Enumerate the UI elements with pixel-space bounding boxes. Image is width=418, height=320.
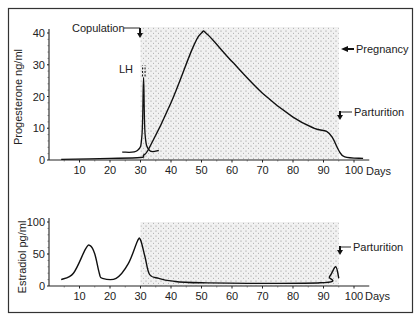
y-tick-label: 20 — [33, 91, 45, 103]
x-tick-label: 100 — [345, 290, 363, 302]
y-tick-label: 10 — [33, 122, 45, 134]
y-tick-label: 100 — [27, 216, 45, 228]
x-tick-label: 10 — [73, 164, 85, 176]
estradiol-y-axis-label: Estradiol pg/ml — [16, 221, 28, 294]
pregnancy-label: Pregnancy — [356, 43, 409, 55]
x-tick-label: 30 — [134, 290, 146, 302]
days-x-axis-label-bottom: Days — [365, 290, 391, 302]
x-tick-label: 90 — [317, 290, 329, 302]
progesterone-y-axis-label: Progesterone ng/ml — [12, 49, 24, 145]
y-tick-label: 0 — [39, 154, 45, 166]
parturition-label-bottom: Parturition — [353, 241, 403, 253]
y-tick-label: 30 — [33, 59, 45, 71]
days-x-axis-label-top: Days — [366, 165, 392, 177]
x-tick-label: 70 — [256, 290, 268, 302]
x-tick-label: 20 — [104, 290, 116, 302]
pregnancy-shaded-region — [141, 27, 339, 160]
x-tick-label: 90 — [317, 164, 329, 176]
y-tick-label: 0 — [39, 280, 45, 292]
parturition-label-top: Parturition — [354, 106, 404, 118]
y-tick-label: 50 — [33, 248, 45, 260]
x-tick-label: 10 — [73, 290, 85, 302]
x-tick-label: 100 — [345, 164, 363, 176]
x-tick-label: 40 — [165, 164, 177, 176]
x-tick-label: 40 — [165, 290, 177, 302]
hormone-chart-figure: 010203040102030405060708090100 Progester… — [0, 0, 418, 320]
x-tick-label: 50 — [195, 290, 207, 302]
x-tick-label: 50 — [195, 164, 207, 176]
x-tick-label: 70 — [256, 164, 268, 176]
x-tick-label: 60 — [226, 290, 238, 302]
x-tick-label: 30 — [134, 164, 146, 176]
x-tick-label: 80 — [287, 290, 299, 302]
x-tick-label: 20 — [104, 164, 116, 176]
pregnancy-shaded-region-bottom — [141, 222, 339, 286]
copulation-label: Copulation — [72, 22, 125, 34]
lh-label: LH — [119, 63, 133, 75]
y-tick-label: 40 — [33, 27, 45, 39]
x-tick-label: 80 — [287, 164, 299, 176]
x-tick-label: 60 — [226, 164, 238, 176]
